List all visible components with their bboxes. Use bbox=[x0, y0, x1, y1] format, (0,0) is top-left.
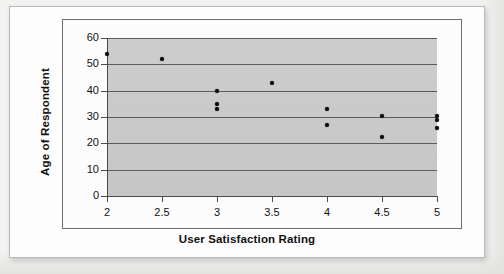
y-axis-tick bbox=[101, 143, 107, 144]
x-axis-tick-label: 3.5 bbox=[252, 206, 292, 218]
figure-card: Age of Respondent User Satisfaction Rati… bbox=[9, 6, 485, 258]
data-point bbox=[435, 126, 439, 130]
data-point bbox=[380, 135, 384, 139]
y-axis-tick-label: 0 bbox=[65, 190, 99, 201]
y-axis-tick-label: 30 bbox=[65, 111, 99, 122]
y-axis-tick-label: 60 bbox=[65, 32, 99, 43]
x-axis-tick bbox=[162, 196, 163, 202]
x-axis-tick bbox=[107, 196, 108, 202]
y-axis-tick bbox=[101, 91, 107, 92]
x-axis-tick bbox=[327, 196, 328, 202]
data-point bbox=[325, 123, 329, 127]
y-axis-tick bbox=[101, 64, 107, 65]
y-axis-tick-label: 10 bbox=[65, 164, 99, 175]
data-point bbox=[435, 118, 439, 122]
data-point bbox=[215, 102, 219, 106]
y-axis-tick-label: 20 bbox=[65, 137, 99, 148]
y-axis-tick bbox=[101, 38, 107, 39]
x-axis-tick-label: 2.5 bbox=[142, 206, 182, 218]
x-axis-tick bbox=[382, 196, 383, 202]
y-axis-tick bbox=[101, 170, 107, 171]
gridline bbox=[107, 117, 437, 118]
x-axis-tick bbox=[217, 196, 218, 202]
gridline bbox=[107, 143, 437, 144]
chart-frame: 0102030405060 22.533.544.55 bbox=[62, 19, 462, 229]
x-axis-title: User Satisfaction Rating bbox=[10, 233, 484, 245]
data-point bbox=[215, 89, 219, 93]
data-point bbox=[105, 52, 109, 56]
data-point bbox=[270, 81, 274, 85]
x-axis-tick-label: 3 bbox=[197, 206, 237, 218]
y-axis-title: Age of Respondent bbox=[36, 37, 54, 207]
x-axis-title-label: User Satisfaction Rating bbox=[179, 233, 316, 245]
x-axis-tick bbox=[437, 196, 438, 202]
x-axis-tick bbox=[272, 196, 273, 202]
y-axis-tick-labels: 0102030405060 bbox=[63, 20, 99, 220]
x-axis-tick-label: 2 bbox=[87, 206, 127, 218]
y-axis-tick-label: 40 bbox=[65, 85, 99, 96]
y-axis-title-label: Age of Respondent bbox=[39, 68, 51, 176]
scan-canvas: Age of Respondent User Satisfaction Rati… bbox=[0, 0, 504, 274]
y-axis-tick bbox=[101, 117, 107, 118]
x-axis-tick-label: 4 bbox=[307, 206, 347, 218]
x-axis-tick-label: 5 bbox=[417, 206, 457, 218]
gridline bbox=[107, 170, 437, 171]
y-axis-line bbox=[107, 38, 108, 197]
y-axis-tick-label: 50 bbox=[65, 58, 99, 69]
gridline bbox=[107, 64, 437, 65]
data-point bbox=[380, 114, 384, 118]
gridline bbox=[107, 91, 437, 92]
plot-area bbox=[107, 38, 437, 196]
x-axis-tick-label: 4.5 bbox=[362, 206, 402, 218]
gridline bbox=[107, 38, 437, 39]
